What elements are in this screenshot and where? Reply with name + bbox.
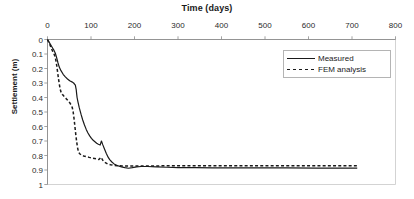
chart-legend: MeasuredFEM analysis	[283, 50, 391, 78]
legend-item: FEM analysis	[287, 64, 386, 75]
solid-line-icon	[287, 55, 315, 63]
settlement-time-chart: Time (days) Settlement (m) 0100200300400…	[0, 0, 414, 199]
dashed-line-icon	[287, 66, 315, 74]
legend-item: Measured	[287, 53, 386, 64]
legend-label: FEM analysis	[318, 65, 366, 74]
legend-label: Measured	[318, 54, 354, 63]
plot-area	[0, 0, 414, 199]
